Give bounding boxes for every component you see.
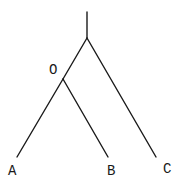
edge-root-to-o [63, 38, 87, 79]
edge-o-to-a [17, 79, 63, 157]
leaf-label-c: C [163, 161, 171, 177]
edge-o-to-b [63, 79, 108, 157]
tree-diagram: O A B C [0, 0, 181, 182]
leaf-label-a: A [8, 163, 17, 179]
node-label-o: O [49, 62, 57, 78]
leaf-label-b: B [107, 163, 115, 179]
